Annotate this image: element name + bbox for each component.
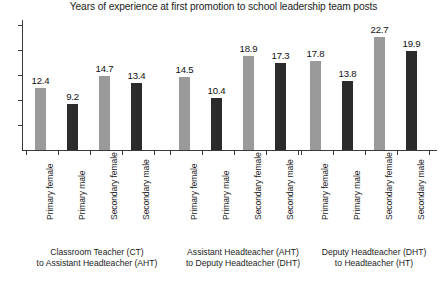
bar-value-label: 13.8 bbox=[334, 68, 362, 79]
x-axis-tick bbox=[429, 151, 430, 155]
bar bbox=[342, 81, 353, 150]
x-axis-tick bbox=[266, 151, 267, 155]
category-label: Secondary female bbox=[109, 152, 119, 220]
bar bbox=[406, 51, 417, 150]
bar-value-label: 19.9 bbox=[398, 38, 426, 49]
plot-area: 12.49.214.713.414.510.418.917.317.813.82… bbox=[22, 20, 437, 151]
bar-chart: Years of experience at first promotion t… bbox=[0, 0, 447, 284]
bar bbox=[310, 61, 321, 150]
bar-value-label: 17.8 bbox=[302, 48, 330, 59]
chart-title: Years of experience at first promotion t… bbox=[0, 1, 447, 12]
bar bbox=[131, 83, 142, 150]
y-axis-tick bbox=[18, 100, 23, 101]
bar bbox=[99, 76, 110, 150]
bar-value-label: 9.2 bbox=[59, 91, 87, 102]
category-label: Primary female bbox=[320, 164, 330, 220]
x-axis-tick bbox=[58, 151, 59, 155]
y-axis-tick bbox=[18, 25, 23, 26]
x-axis-tick bbox=[333, 151, 334, 155]
y-axis-tick bbox=[18, 125, 23, 126]
category-label: Secondary male bbox=[141, 159, 151, 220]
bar-value-label: 14.7 bbox=[91, 63, 119, 74]
group-caption: Deputy Headteacher (DHT)to Headteacher (… bbox=[284, 247, 447, 268]
x-axis-tick bbox=[170, 151, 171, 155]
category-label: Secondary female bbox=[384, 152, 394, 220]
x-axis-tick bbox=[90, 151, 91, 155]
x-axis-tick bbox=[122, 151, 123, 155]
y-axis-line bbox=[22, 20, 23, 151]
group-caption-line: Deputy Headteacher (DHT) bbox=[284, 247, 447, 258]
group-caption-line: to Headteacher (HT) bbox=[284, 258, 447, 269]
y-axis-tick bbox=[18, 50, 23, 51]
category-label: Primary female bbox=[189, 164, 199, 220]
x-axis-line bbox=[22, 150, 437, 151]
category-label: Primary male bbox=[352, 171, 362, 220]
bar bbox=[275, 63, 286, 150]
x-axis-tick bbox=[301, 151, 302, 155]
bar bbox=[179, 77, 190, 150]
x-axis-tick bbox=[397, 151, 398, 155]
x-axis-tick bbox=[154, 151, 155, 155]
bar bbox=[35, 88, 46, 150]
x-axis-tick bbox=[298, 151, 299, 155]
bar-value-label: 14.5 bbox=[171, 64, 199, 75]
category-label: Secondary female bbox=[253, 152, 263, 220]
x-axis-tick bbox=[202, 151, 203, 155]
bar-value-label: 17.3 bbox=[267, 50, 295, 61]
category-label: Primary female bbox=[45, 164, 55, 220]
bar-value-label: 13.4 bbox=[123, 70, 151, 81]
y-axis-tick bbox=[18, 75, 23, 76]
bar-value-label: 22.7 bbox=[366, 24, 394, 35]
bar bbox=[67, 104, 78, 150]
bar bbox=[211, 98, 222, 150]
category-label: Secondary male bbox=[416, 159, 426, 220]
x-axis-tick bbox=[234, 151, 235, 155]
category-label: Primary male bbox=[221, 171, 231, 220]
x-axis-tick bbox=[365, 151, 366, 155]
bar-value-label: 12.4 bbox=[27, 75, 55, 86]
category-label: Secondary male bbox=[285, 159, 295, 220]
category-label: Primary male bbox=[77, 171, 87, 220]
bar bbox=[374, 37, 385, 150]
x-axis-tick bbox=[26, 151, 27, 155]
bar-value-label: 10.4 bbox=[203, 85, 231, 96]
bar-value-label: 18.9 bbox=[235, 43, 263, 54]
bar bbox=[243, 56, 254, 150]
